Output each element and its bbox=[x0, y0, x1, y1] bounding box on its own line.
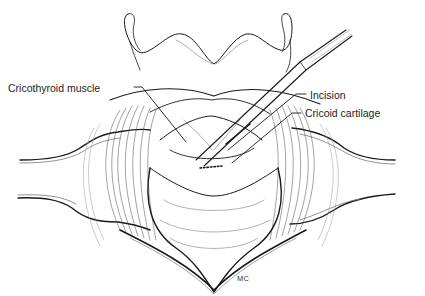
muscle-striations bbox=[83, 106, 338, 246]
label-cricoid-cartilage: Cricoid cartilage bbox=[305, 107, 380, 119]
surgical-illustration: Cricothyroid muscle Incision Cricoid car… bbox=[0, 0, 425, 296]
incision-dots bbox=[200, 166, 222, 168]
left-skin-flap bbox=[18, 129, 150, 230]
artist-signature: MC bbox=[237, 274, 249, 283]
right-skin-flap bbox=[290, 128, 395, 224]
illustration-artwork bbox=[0, 0, 425, 296]
lower-wound-edge bbox=[120, 230, 306, 294]
cricoid-tracheal-body bbox=[148, 168, 281, 292]
label-incision: Incision bbox=[310, 89, 346, 101]
thyroid-cartilage-outline bbox=[124, 13, 292, 72]
label-cricothyroid-muscle: Cricothyroid muscle bbox=[8, 82, 100, 94]
